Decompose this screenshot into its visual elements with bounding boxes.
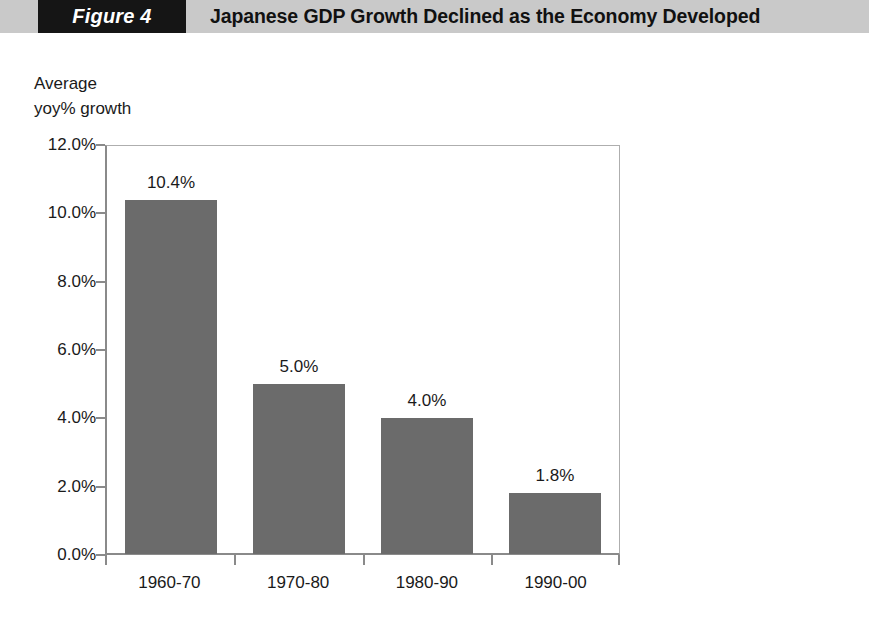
x-axis-tick-label: 1990-00: [491, 573, 620, 593]
x-axis-tick-mark: [618, 555, 620, 565]
y-axis-tick-mark: [96, 281, 105, 283]
y-axis-tick-labels: 12.0%10.0%8.0%6.0%4.0%2.0%0.0%: [0, 145, 96, 555]
bar-value-label: 5.0%: [253, 357, 345, 377]
y-axis-tick-label: 4.0%: [57, 408, 96, 428]
bar-group: 1.8%: [509, 146, 601, 554]
y-axis-tick-label: 8.0%: [57, 272, 96, 292]
x-axis-tick-marks: [105, 555, 620, 565]
y-axis-tick-label: 0.0%: [57, 545, 96, 565]
figure-number-label: Figure 4: [38, 0, 186, 33]
y-axis-tick-mark: [96, 554, 105, 556]
y-axis-tick-mark: [96, 144, 105, 146]
x-axis-tick-label: 1960-70: [105, 573, 234, 593]
bar-group: 4.0%: [381, 146, 473, 554]
bar: [125, 200, 217, 554]
x-axis-tick-label: 1980-90: [363, 573, 492, 593]
y-axis-tick-mark: [96, 417, 105, 419]
y-axis-tick-marks: [96, 145, 105, 555]
y-axis-tick-mark: [96, 212, 105, 214]
y-axis-tick-label: 2.0%: [57, 477, 96, 497]
y-axis-tick-mark: [96, 486, 105, 488]
bar-value-label: 10.4%: [125, 173, 217, 193]
y-axis-tick-label: 6.0%: [57, 340, 96, 360]
bar-group: 5.0%: [253, 146, 345, 554]
y-axis-caption-line1: Average: [34, 71, 131, 96]
bar: [381, 418, 473, 554]
y-axis-tick-label: 12.0%: [48, 135, 96, 155]
y-axis-caption: Average yoy% growth: [34, 71, 131, 121]
y-axis-caption-line2: yoy% growth: [34, 96, 131, 121]
x-axis-tick-mark: [234, 555, 236, 565]
bars-layer: 10.4%5.0%4.0%1.8%: [107, 146, 619, 554]
bar: [509, 493, 601, 554]
figure-title: Japanese GDP Growth Declined as the Econ…: [210, 0, 760, 33]
bar-value-label: 4.0%: [381, 391, 473, 411]
chart-canvas: Average yoy% growth 12.0%10.0%8.0%6.0%4.…: [0, 33, 869, 622]
x-axis-tick-mark: [363, 555, 365, 565]
figure-header-band: Figure 4 Japanese GDP Growth Declined as…: [0, 0, 869, 33]
x-axis-tick-labels: 1960-701970-801980-901990-00: [105, 573, 620, 603]
bar-group: 10.4%: [125, 146, 217, 554]
figure-number-box: Figure 4: [38, 0, 186, 33]
bar-value-label: 1.8%: [509, 466, 601, 486]
x-axis-tick-label: 1970-80: [234, 573, 363, 593]
bar: [253, 384, 345, 554]
x-axis-tick-mark: [105, 555, 107, 565]
x-axis-tick-mark: [491, 555, 493, 565]
y-axis-tick-mark: [96, 349, 105, 351]
y-axis-tick-label: 10.0%: [48, 203, 96, 223]
